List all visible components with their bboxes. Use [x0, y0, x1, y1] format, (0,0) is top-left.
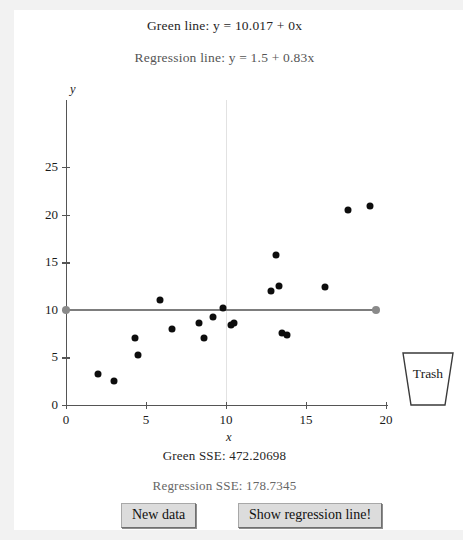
y-tick-label: 0	[32, 397, 58, 413]
x-tick	[146, 402, 147, 409]
regression-sse-text: Regression SSE: 178.7345	[0, 478, 449, 494]
data-point[interactable]	[283, 331, 290, 338]
data-point[interactable]	[210, 314, 217, 321]
x-tick-label: 15	[300, 412, 313, 428]
show-regression-line-button[interactable]: Show regression line!	[238, 503, 382, 528]
y-tick	[62, 357, 70, 358]
x-tick-label: 20	[380, 412, 393, 428]
data-point[interactable]	[231, 320, 238, 327]
x-tick-label: 0	[63, 412, 70, 428]
data-point[interactable]	[200, 335, 207, 342]
data-point[interactable]	[219, 304, 226, 311]
x-tick	[226, 402, 227, 409]
x-tick-label: 10	[220, 412, 233, 428]
green-sse-text: Green SSE: 472.20698	[0, 448, 449, 464]
y-tick	[62, 167, 70, 168]
data-point[interactable]	[157, 297, 164, 304]
vertical-guide-line	[226, 100, 227, 406]
y-tick-label: 25	[32, 159, 58, 175]
green-line-equation: Green line: y = 10.017 + 0x	[0, 18, 449, 34]
data-point[interactable]	[95, 370, 102, 377]
y-tick-label: 20	[32, 207, 58, 223]
y-tick	[62, 405, 70, 406]
green-line-left-handle[interactable]	[62, 306, 70, 314]
x-tick-label: 5	[143, 412, 150, 428]
scatter-plot[interactable]: 051015200510152025 x y	[14, 72, 414, 437]
new-data-button[interactable]: New data	[121, 503, 196, 528]
data-point[interactable]	[322, 283, 329, 290]
data-point[interactable]	[135, 352, 142, 359]
data-point[interactable]	[367, 203, 374, 210]
x-tick	[306, 402, 307, 409]
data-point[interactable]	[131, 335, 138, 342]
trash-can[interactable]: Trash	[400, 350, 456, 408]
data-point[interactable]	[168, 325, 175, 332]
y-tick-label: 10	[32, 302, 58, 318]
regression-line-equation: Regression line: y = 1.5 + 0.83x	[0, 50, 449, 66]
data-point[interactable]	[195, 320, 202, 327]
applet-panel: Green line: y = 10.017 + 0x Regression l…	[14, 10, 463, 530]
x-tick	[386, 402, 387, 409]
data-point[interactable]	[272, 251, 279, 258]
y-axis-label: y	[70, 82, 76, 97]
green-line-right-handle[interactable]	[372, 306, 380, 314]
y-tick-label: 15	[32, 254, 58, 270]
trash-label: Trash	[400, 366, 456, 382]
y-axis	[66, 100, 67, 406]
data-point[interactable]	[267, 287, 274, 294]
data-point[interactable]	[111, 378, 118, 385]
x-axis-label: x	[226, 430, 232, 445]
y-tick	[62, 262, 70, 263]
y-tick-label: 5	[32, 349, 58, 365]
data-point[interactable]	[275, 283, 282, 290]
data-point[interactable]	[344, 206, 351, 213]
y-tick	[62, 215, 70, 216]
